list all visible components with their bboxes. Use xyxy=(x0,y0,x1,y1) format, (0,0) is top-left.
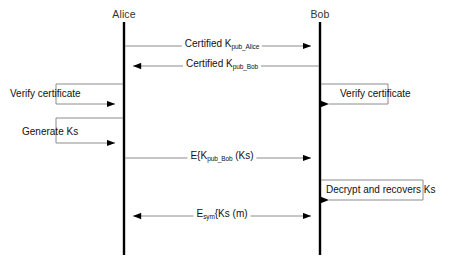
self-action-label-bob-verify-certificate: Verify certificate xyxy=(340,88,411,99)
lifelines xyxy=(124,22,320,255)
sequence-diagram-canvas: Alice Bob Certified Kpub_Alice Certified… xyxy=(0,0,455,269)
message-label-symmetric-message: Esym{Ks (m) xyxy=(193,208,250,220)
message-label-text: E{K xyxy=(190,150,207,161)
message-label-text: Certified K xyxy=(185,38,232,49)
message-label-subscript: sym xyxy=(203,213,215,220)
actor-label-bob: Bob xyxy=(311,8,330,20)
message-label-text: E xyxy=(196,208,203,219)
message-label-text: Certified K xyxy=(186,58,233,69)
message-label-subscript: pub_Alice xyxy=(232,43,260,50)
message-label-suffix: (Ks) xyxy=(232,150,253,161)
message-label-certified-kpub-bob: Certified Kpub_Bob xyxy=(183,58,261,70)
message-label-certified-kpub-alice: Certified Kpub_Alice xyxy=(182,38,262,50)
self-action-label-alice-verify-certificate: Verify certificate xyxy=(10,88,81,99)
self-action-label-alice-generate-ks: Generate Ks xyxy=(22,126,78,137)
self-action-label-bob-decrypt-recovers-ks: Decrypt and recovers Ks xyxy=(326,184,436,195)
actor-label-alice: Alice xyxy=(112,8,135,20)
message-label-subscript: pub_Bob xyxy=(233,63,258,70)
message-label-encrypt-session-key: E{Kpub_Bob (Ks) xyxy=(187,150,256,162)
message-label-suffix: {Ks (m) xyxy=(215,208,248,219)
message-label-subscript: pub_Bob xyxy=(207,155,232,162)
